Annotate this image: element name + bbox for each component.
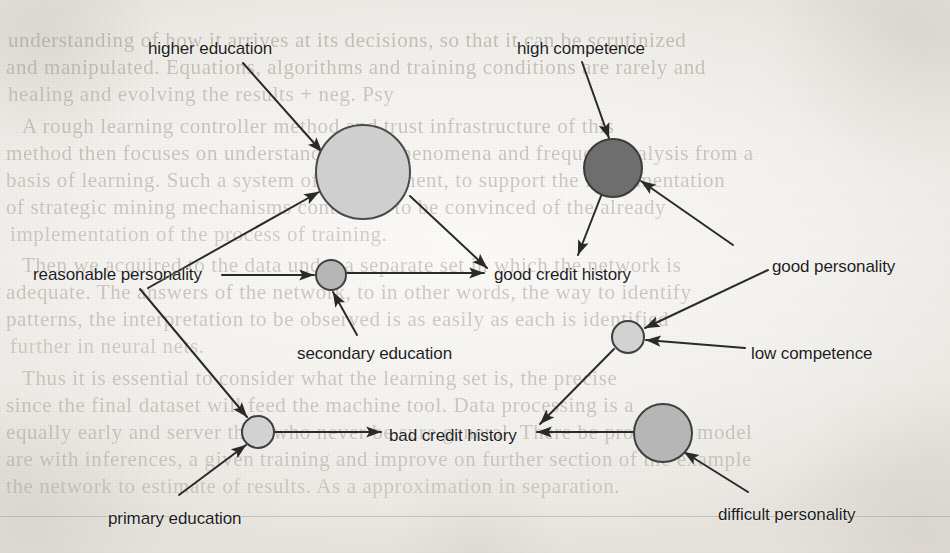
diagram-edge xyxy=(646,340,745,348)
diagram-edge xyxy=(582,62,609,138)
diagram-node xyxy=(634,404,692,462)
diagram-edge xyxy=(684,452,748,492)
diagram-node xyxy=(612,321,644,353)
diagram-node xyxy=(316,125,410,219)
diagram-edge xyxy=(333,292,357,335)
diagram-edge xyxy=(140,289,247,417)
l-good-credit-history: good credit history xyxy=(494,266,631,283)
scanned-page: understanding of how it arrives at its d… xyxy=(0,0,950,553)
l-good-personality: good personality xyxy=(772,258,895,275)
diagram-node xyxy=(584,139,642,197)
diagram-edge xyxy=(540,349,614,424)
l-primary-education: primary education xyxy=(108,510,241,527)
l-difficult-personality: difficult personality xyxy=(718,506,855,523)
diagram-canvas: higher educationhigh competencereasonabl… xyxy=(0,0,950,553)
diagram-node xyxy=(242,416,274,448)
l-high-competence: high competence xyxy=(517,40,645,57)
l-low-competence: low competence xyxy=(751,345,872,362)
diagram-edge xyxy=(243,63,322,152)
diagram-edge xyxy=(410,196,487,268)
diagram-edge xyxy=(641,181,733,245)
diagram-edge xyxy=(179,445,246,495)
l-secondary-education: secondary education xyxy=(297,345,452,362)
diagram-edge xyxy=(645,270,768,328)
diagram-node xyxy=(316,260,346,290)
diagram-edge xyxy=(578,196,601,255)
l-bad-credit-history: bad credit history xyxy=(389,427,517,444)
l-reasonable-personality: reasonable personality xyxy=(33,266,202,283)
l-higher-education: higher education xyxy=(148,40,272,57)
